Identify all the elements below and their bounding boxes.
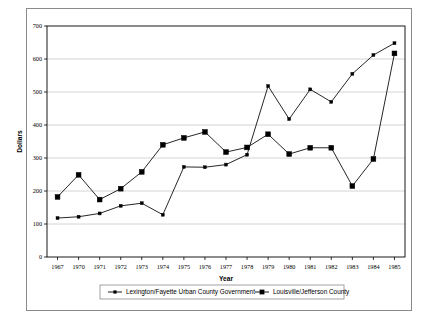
data-point-marker: [161, 213, 164, 216]
data-point-marker: [225, 163, 228, 166]
data-point-marker: [77, 215, 80, 218]
data-point-marker: [246, 153, 249, 156]
legend-item-1[interactable]: Lexington/Fayette Urban County Governmen…: [108, 288, 255, 296]
data-point-marker: [76, 172, 81, 177]
chart-canvas: 0100200300400500600700196719701971197219…: [0, 0, 439, 320]
data-point-marker: [98, 212, 101, 215]
data-point-marker: [55, 195, 60, 200]
x-axis-tick-label: 1978: [241, 263, 253, 270]
data-point-marker: [309, 88, 312, 91]
data-point-marker: [350, 184, 355, 189]
y-axis-tick-label: 400: [33, 121, 42, 128]
line-chart: 0100200300400500600700196719701971197219…: [0, 0, 439, 320]
y-axis-tick-label: 600: [33, 55, 42, 62]
y-axis-tick-label: 200: [33, 187, 42, 194]
data-point-marker: [329, 145, 334, 150]
legend-label: Louisville/Jefferson County: [273, 288, 350, 296]
y-axis-title: Dollars: [16, 130, 23, 153]
data-point-marker: [267, 85, 270, 88]
x-axis-tick-label: 1984: [367, 263, 379, 270]
legend-marker-icon: [113, 290, 116, 293]
data-point-marker: [97, 197, 102, 202]
x-axis-tick-label: 1981: [304, 263, 316, 270]
data-point-marker: [288, 118, 291, 121]
data-point-marker: [119, 204, 122, 207]
x-axis-tick-label: 1967: [51, 263, 63, 270]
x-axis-tick-label: 1982: [325, 263, 337, 270]
plot-area-border: [47, 26, 405, 257]
series-2: [55, 51, 397, 202]
x-axis-tick-label: 1985: [388, 263, 400, 270]
data-point-marker: [140, 202, 143, 205]
x-axis-title: Year: [219, 275, 233, 282]
y-axis-tick-label: 300: [33, 154, 42, 161]
y-axis-tick-label: 700: [33, 22, 42, 29]
x-axis-tick-label: 1974: [157, 263, 169, 270]
x-axis-tick-label: 1973: [136, 263, 148, 270]
legend-label: Lexington/Fayette Urban County Governmen…: [126, 288, 255, 296]
x-axis-tick-label: 1976: [199, 263, 211, 270]
data-point-marker: [351, 72, 354, 75]
series-line: [58, 43, 395, 218]
data-point-marker: [181, 135, 186, 140]
x-axis-tick-label: 1972: [115, 263, 127, 270]
x-axis-tick-label: 1980: [283, 263, 295, 270]
series-line: [58, 53, 395, 199]
data-point-marker: [308, 145, 313, 150]
x-axis-tick-label: 1975: [178, 263, 190, 270]
data-point-marker: [160, 142, 165, 147]
data-point-marker: [392, 51, 397, 56]
data-point-marker: [203, 130, 208, 135]
y-axis-tick-label: 500: [33, 88, 42, 95]
data-point-marker: [224, 150, 229, 155]
x-axis-tick-label: 1970: [72, 263, 84, 270]
data-point-marker: [372, 54, 375, 57]
x-axis-tick-label: 1977: [220, 263, 232, 270]
data-point-marker: [393, 42, 396, 45]
data-point-marker: [139, 169, 144, 174]
data-point-marker: [182, 165, 185, 168]
data-point-marker: [203, 166, 206, 169]
data-point-marker: [118, 186, 123, 191]
y-axis-tick-label: 0: [39, 253, 42, 260]
data-point-marker: [266, 132, 271, 137]
x-axis-tick-label: 1983: [346, 263, 358, 270]
legend-marker-icon: [260, 290, 265, 295]
series-1: [56, 42, 396, 220]
y-axis-tick-label: 100: [33, 220, 42, 227]
data-point-marker: [330, 100, 333, 103]
x-axis-tick-label: 1979: [262, 263, 274, 270]
data-point-marker: [371, 157, 376, 162]
data-point-marker: [287, 152, 292, 157]
data-point-marker: [56, 217, 59, 220]
x-axis-tick-label: 1971: [93, 263, 105, 270]
data-point-marker: [245, 145, 250, 150]
